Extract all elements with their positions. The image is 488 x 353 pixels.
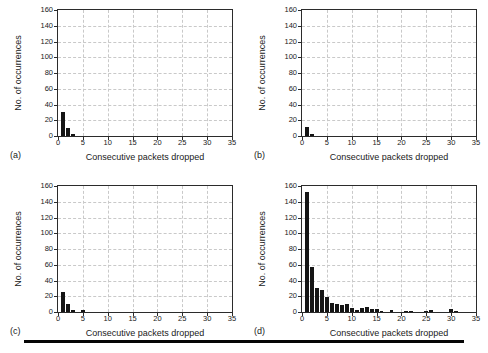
- x-axis-tick-label: 0: [56, 139, 60, 147]
- gridline-horizontal: [58, 202, 232, 203]
- gridline-horizontal: [58, 120, 232, 121]
- gridline-horizontal: [58, 233, 232, 234]
- histogram-bar: [61, 292, 65, 312]
- histogram-bar: [390, 310, 394, 312]
- gridline-vertical: [108, 10, 109, 136]
- y-axis-tick: [54, 73, 58, 74]
- gridline-horizontal: [302, 42, 476, 43]
- gridline-vertical: [157, 186, 158, 312]
- y-axis-tick-label: 160: [40, 6, 53, 14]
- gridline-horizontal: [58, 249, 232, 250]
- y-axis-tick-label: 160: [284, 6, 297, 14]
- histogram-bar: [310, 267, 314, 312]
- gridline-horizontal: [58, 105, 232, 106]
- gridline-horizontal: [302, 26, 476, 27]
- gridline-vertical: [83, 186, 84, 312]
- x-axis-tick-label: 20: [397, 315, 405, 323]
- gridline-vertical: [207, 10, 208, 136]
- gridline-horizontal: [58, 73, 232, 74]
- gridline-horizontal: [302, 233, 476, 234]
- y-axis-tick-label: 160: [284, 182, 297, 190]
- y-axis-tick: [54, 233, 58, 234]
- panel-d-x-axis-title: Consecutive packets dropped: [301, 328, 477, 339]
- gridline-vertical: [401, 10, 402, 136]
- gridline-horizontal: [302, 265, 476, 266]
- y-axis-tick-label: 0: [293, 308, 297, 316]
- histogram-bar: [61, 112, 65, 136]
- y-axis-tick-label: 20: [289, 117, 297, 125]
- y-axis-tick: [298, 218, 302, 219]
- y-axis-tick: [298, 265, 302, 266]
- gridline-horizontal: [58, 89, 232, 90]
- y-axis-tick-label: 40: [289, 101, 297, 109]
- x-axis-tick-label: 35: [228, 139, 236, 147]
- x-axis-tick-label: 30: [447, 315, 455, 323]
- y-axis-tick-label: 140: [40, 22, 53, 30]
- y-axis-tick-label: 20: [45, 293, 53, 301]
- y-axis-tick: [298, 233, 302, 234]
- x-axis-tick-label: 5: [325, 315, 329, 323]
- panel-c-plot-inner: [58, 186, 232, 312]
- y-axis-tick-label: 80: [45, 245, 53, 253]
- y-axis-tick-label: 60: [289, 85, 297, 93]
- y-axis-tick: [298, 186, 302, 187]
- panel-b-y-axis-title: No. of occurrences: [256, 9, 268, 137]
- gridline-vertical: [327, 186, 328, 312]
- y-axis-tick: [54, 249, 58, 250]
- x-axis-tick-label: 10: [348, 139, 356, 147]
- gridline-vertical: [182, 10, 183, 136]
- x-axis-tick-label: 20: [153, 315, 161, 323]
- panel-a-plot-area: 02040608010012014016005101520253035: [57, 9, 233, 137]
- y-axis-tick-label: 40: [45, 101, 53, 109]
- gridline-horizontal: [302, 202, 476, 203]
- y-axis-tick: [298, 296, 302, 297]
- gridline-vertical: [327, 10, 328, 136]
- histogram-bar: [404, 311, 408, 312]
- y-axis-tick: [298, 105, 302, 106]
- gridline-vertical: [352, 186, 353, 312]
- gridline-horizontal: [58, 218, 232, 219]
- y-axis-tick-label: 40: [289, 277, 297, 285]
- y-axis-tick-label: 100: [284, 230, 297, 238]
- x-axis-tick-label: 5: [81, 139, 85, 147]
- y-axis-tick-label: 100: [40, 54, 53, 62]
- y-axis-tick: [298, 42, 302, 43]
- panel-b: No. of occurrences 020406080100120140160…: [244, 0, 488, 176]
- gridline-vertical: [377, 186, 378, 312]
- histogram-bar: [454, 311, 458, 312]
- x-axis-tick-label: 10: [348, 315, 356, 323]
- y-axis-tick: [298, 26, 302, 27]
- panel-c-x-axis-title: Consecutive packets dropped: [57, 328, 233, 339]
- gridline-vertical: [352, 10, 353, 136]
- x-axis-tick-label: 0: [300, 315, 304, 323]
- histogram-bar: [305, 127, 309, 136]
- x-axis-tick-label: 20: [397, 139, 405, 147]
- x-axis-tick-label: 30: [203, 139, 211, 147]
- panel-a-y-axis-title: No. of occurrences: [12, 9, 24, 137]
- y-axis-tick-label: 20: [45, 117, 53, 125]
- histogram-bar: [66, 128, 70, 136]
- panel-a-label: (a): [10, 150, 21, 161]
- histogram-bar: [330, 303, 334, 312]
- gridline-vertical: [207, 186, 208, 312]
- y-axis-tick-label: 0: [293, 132, 297, 140]
- y-axis-tick-label: 80: [45, 69, 53, 77]
- histogram-bar: [355, 310, 359, 312]
- y-axis-tick: [298, 202, 302, 203]
- y-axis-tick: [298, 249, 302, 250]
- y-axis-tick-label: 60: [45, 85, 53, 93]
- x-axis-tick-label: 35: [472, 315, 480, 323]
- y-axis-tick: [298, 89, 302, 90]
- y-axis-tick: [54, 218, 58, 219]
- x-axis-tick-label: 5: [325, 139, 329, 147]
- x-axis-tick-label: 25: [178, 315, 186, 323]
- gridline-vertical: [401, 186, 402, 312]
- histogram-bar: [315, 288, 319, 312]
- bottom-horizontal-rule: [24, 340, 464, 343]
- x-axis-tick-label: 5: [81, 315, 85, 323]
- panel-d: No. of occurrences 020406080100120140160…: [244, 176, 488, 352]
- y-axis-tick-label: 160: [40, 182, 53, 190]
- y-axis-tick-label: 120: [284, 214, 297, 222]
- x-axis-tick-label: 10: [104, 315, 112, 323]
- histogram-bar: [335, 304, 339, 312]
